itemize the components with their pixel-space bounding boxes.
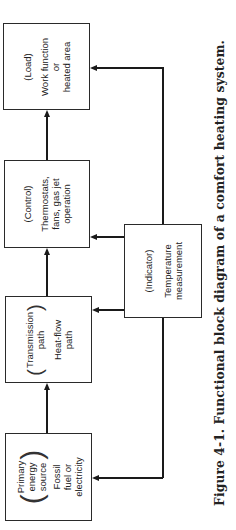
block-load-line-2: or [50,62,61,70]
block-indicator-role: (Indicator) [143,250,154,293]
connector-indicator-to-control [97,236,124,238]
connector-transmission-to-control [46,255,48,296]
open-paren: ( [25,369,45,376]
block-primary-role-line-2: energy [25,462,36,491]
block-control-line-2: fans, gas jet [50,178,61,229]
block-transmission-line-1: Heat-flow [52,319,63,359]
arrowhead-up-icon [44,110,50,117]
block-load-text: (Load) Work function or heated area [22,38,72,96]
open-paren: ( [16,494,46,504]
block-transmission-text: ( Transmission path ) Heat-flow path [24,304,74,375]
block-load-role: (Load) [22,53,33,80]
close-paren: ) [16,450,46,460]
block-control-line-1: Thermostats, [39,176,50,231]
block-primary-line-1: Fossil [50,465,61,490]
block-load-line-3: heated area [61,41,72,92]
connector-feedback-to-primary [99,477,163,479]
block-transmission: ( Transmission path ) Heat-flow path [5,296,92,383]
block-primary-text: ( Primary energy source ) Fossil fuel or… [14,450,83,505]
connector-control-to-load [46,117,48,160]
feedback-line-vertical-top [162,67,164,224]
block-primary-role: ( Primary energy source ) [14,450,47,505]
block-control: (Control) Thermostats, fans, gas jet ope… [4,160,90,248]
block-primary-role-inner: Primary energy source [14,460,47,495]
block-control-role: (Control) [22,186,33,223]
block-indicator-line-1: Temperature [162,244,173,297]
block-load: (Load) Work function or heated area [3,23,90,110]
arrowhead-left-icon [92,475,99,481]
close-paren: ) [25,304,45,311]
connector-feedback-to-load [97,67,163,69]
block-load-line-1: Work function [39,38,50,96]
block-transmission-line-2: path [63,330,74,349]
block-transmission-role-line-2: path [35,330,46,349]
block-primary-line-2: fuel or [61,464,72,490]
block-primary-role-line-3: source [36,463,47,492]
block-indicator-line-2: measurement [173,242,184,300]
block-indicator-text: (Indicator) Temperature measurement [143,242,184,300]
feedback-line-vertical-bottom [162,318,164,478]
arrowhead-left-icon [90,234,97,240]
block-indicator: (Indicator) Temperature measurement [124,224,202,318]
arrowhead-up-icon [44,248,50,255]
figure-caption: Figure 4-1. Functional block diagram of … [212,40,227,506]
block-transmission-role-line-1: Transmission [24,311,35,367]
block-primary-line-3: electricity [72,457,83,497]
block-transmission-role: ( Transmission path ) [24,304,46,375]
arrowhead-left-icon [92,307,99,313]
arrowhead-up-icon [44,383,50,390]
arrowhead-left-icon [90,65,97,71]
block-primary-energy: ( Primary energy source ) Fossil fuel or… [5,433,92,521]
connector-indicator-to-transmission [99,309,124,311]
connector-primary-to-transmission [46,390,48,433]
block-primary-role-line-1: Primary [14,461,25,494]
block-control-line-3: operation [61,184,72,224]
block-control-text: (Control) Thermostats, fans, gas jet ope… [22,176,72,231]
block-transmission-role-inner: Transmission path [24,310,46,368]
